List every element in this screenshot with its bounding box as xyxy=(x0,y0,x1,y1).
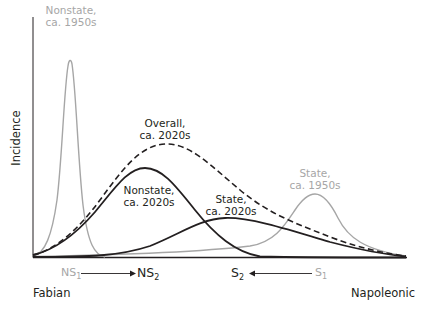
label-nonstate-2020s: Nonstate, ca. 2020s xyxy=(118,184,180,208)
x-axis-left-label: Fabian xyxy=(33,286,70,300)
arrowhead-ns2 xyxy=(130,271,136,277)
y-axis-label: Incidence xyxy=(9,108,23,168)
marker-ns1: NS1 xyxy=(61,266,81,280)
x-axis-right-label: Napoleonic xyxy=(351,286,415,300)
arrowhead-s2 xyxy=(249,271,255,277)
marker-ns2: NS2 xyxy=(137,266,159,281)
marker-s2: S2 xyxy=(231,266,244,281)
label-state-2020s: State, ca. 2020s xyxy=(200,193,262,217)
curve-nonstate-1950s xyxy=(33,60,105,257)
label-overall-2020s: Overall, ca. 2020s xyxy=(134,117,196,141)
marker-s1: S1 xyxy=(315,266,327,280)
label-nonstate-1950s: Nonstate, ca. 1950s xyxy=(40,4,102,28)
label-state-1950s: State, ca. 1950s xyxy=(284,167,346,191)
